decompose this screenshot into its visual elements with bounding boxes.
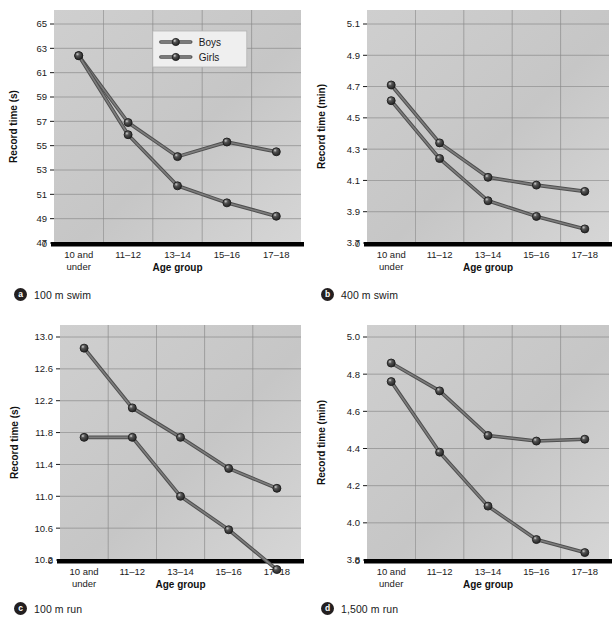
- data-point-highlight: [126, 132, 128, 134]
- legend[interactable]: BoysGirls: [153, 31, 247, 67]
- x-tick-label: 17–18: [263, 249, 289, 260]
- data-point-marker: [174, 182, 182, 190]
- data-point-highlight: [583, 550, 585, 552]
- y-axis-ticks: 3.84.04.24.44.64.85.0: [347, 331, 367, 565]
- legend-label: Boys: [199, 37, 221, 48]
- data-point-marker: [80, 433, 88, 441]
- x-axis-title: Age group: [156, 579, 206, 590]
- y-axis-title: Record time (min): [316, 84, 327, 169]
- data-point-marker: [387, 81, 395, 89]
- data-point-marker: [387, 359, 395, 367]
- data-point-highlight: [130, 435, 132, 437]
- data-point-marker: [174, 153, 182, 161]
- legend-label: Girls: [199, 52, 220, 63]
- legend-marker-icon: [172, 53, 179, 60]
- data-point-highlight: [437, 450, 439, 452]
- y-tick-label: 4.2: [347, 480, 360, 491]
- y-tick-label: 11.8: [35, 427, 53, 438]
- data-point-marker: [532, 181, 540, 189]
- data-point-highlight: [225, 140, 227, 142]
- y-tick-label: 65: [36, 18, 47, 29]
- y-tick-label: 4.6: [347, 406, 360, 417]
- data-point-marker: [484, 197, 492, 205]
- axis-break-zero-label: 0: [355, 555, 360, 566]
- data-point-highlight: [178, 494, 180, 496]
- data-point-marker: [273, 566, 281, 574]
- data-point-marker: [273, 484, 281, 492]
- figure-grid: 47495153555759616365010 andunder11–1213–…: [0, 0, 615, 631]
- data-point-marker: [436, 139, 444, 147]
- chart-a: 47495153555759616365010 andunder11–1213–…: [0, 0, 307, 315]
- caption-badge-icon: c: [14, 602, 27, 615]
- panel-d: 3.84.04.24.44.64.85.0010 andunder11–1213…: [307, 315, 615, 631]
- chart-canvas-b: 3.73.94.14.34.54.74.95.1010 andunder11–1…: [307, 0, 615, 288]
- x-tick-label: 15–16: [523, 249, 549, 260]
- x-tick-label: 10 and: [70, 566, 99, 577]
- data-point-marker: [128, 433, 136, 441]
- x-tick-label: 15–16: [214, 249, 240, 260]
- axis-break-zero-label: 0: [355, 238, 360, 249]
- y-tick-label: 10.6: [35, 523, 54, 534]
- data-point-highlight: [389, 379, 391, 381]
- data-point-marker: [177, 433, 185, 441]
- x-tick-label: 11–12: [427, 566, 453, 577]
- data-point-highlight: [534, 439, 536, 441]
- data-point-marker: [581, 435, 589, 443]
- y-tick-label: 55: [36, 140, 47, 151]
- legend-marker-highlight: [174, 55, 176, 57]
- data-point-marker: [75, 52, 83, 60]
- x-tick-label: 13–14: [164, 249, 190, 260]
- y-tick-label: 11.0: [35, 491, 53, 502]
- data-point-marker: [484, 502, 492, 510]
- data-point-highlight: [227, 466, 229, 468]
- x-tick-label: 13–14: [167, 566, 193, 577]
- chart-canvas-c: 10.210.611.011.411.812.212.613.0010 andu…: [0, 315, 307, 605]
- data-point-highlight: [583, 227, 585, 229]
- data-point-highlight: [130, 406, 132, 408]
- data-point-highlight: [274, 149, 276, 151]
- x-tick-label: 17–18: [572, 249, 598, 260]
- data-point-marker: [436, 155, 444, 163]
- x-tick-label: under: [379, 261, 403, 272]
- data-point-marker: [484, 173, 492, 181]
- data-point-marker: [532, 437, 540, 445]
- data-point-highlight: [583, 189, 585, 191]
- data-point-highlight: [175, 184, 177, 186]
- panel-b: 3.73.94.14.34.54.74.95.1010 andunder11–1…: [307, 0, 615, 315]
- x-tick-label: 13–14: [475, 566, 501, 577]
- axis-break-zero-label: 0: [42, 238, 47, 249]
- chart-d: 3.84.04.24.44.64.85.0010 andunder11–1213…: [307, 315, 615, 631]
- data-point-highlight: [389, 361, 391, 363]
- x-tick-label: 15–16: [523, 566, 549, 577]
- caption-badge-icon: a: [14, 288, 27, 301]
- chart-c: 10.210.611.011.411.812.212.613.0010 andu…: [0, 315, 307, 631]
- caption-label: 100 m run: [34, 603, 82, 615]
- legend-marker-highlight: [174, 40, 176, 42]
- x-tick-label: under: [379, 578, 403, 589]
- data-point-marker: [272, 212, 280, 220]
- chart-canvas-d: 3.84.04.24.44.64.85.0010 andunder11–1213…: [307, 315, 615, 605]
- data-point-highlight: [486, 198, 488, 200]
- caption-label: 1,500 m run: [341, 603, 398, 615]
- data-point-marker: [581, 187, 589, 195]
- y-axis-ticks: 47495153555759616365: [36, 18, 54, 248]
- data-point-marker: [436, 448, 444, 456]
- axis-break-zero-label: 0: [48, 555, 53, 566]
- caption-badge-icon: b: [321, 288, 334, 301]
- x-axis-title: Age group: [153, 262, 203, 273]
- x-tick-label: 15–16: [215, 566, 241, 577]
- y-tick-label: 4.0: [347, 517, 360, 528]
- caption-label: 400 m swim: [341, 289, 398, 301]
- y-tick-label: 5.1: [347, 18, 360, 29]
- data-point-highlight: [486, 433, 488, 435]
- data-point-highlight: [534, 537, 536, 539]
- data-point-highlight: [534, 183, 536, 185]
- caption-a: a 100 m swim: [14, 288, 91, 301]
- data-point-highlight: [82, 346, 84, 348]
- y-tick-label: 57: [36, 116, 47, 127]
- data-point-highlight: [437, 156, 439, 158]
- x-axis-bar: [51, 242, 304, 247]
- caption-b: b 400 m swim: [321, 288, 398, 301]
- x-axis-title: Age group: [463, 579, 513, 590]
- panel-c: 10.210.611.011.411.812.212.613.0010 andu…: [0, 315, 307, 631]
